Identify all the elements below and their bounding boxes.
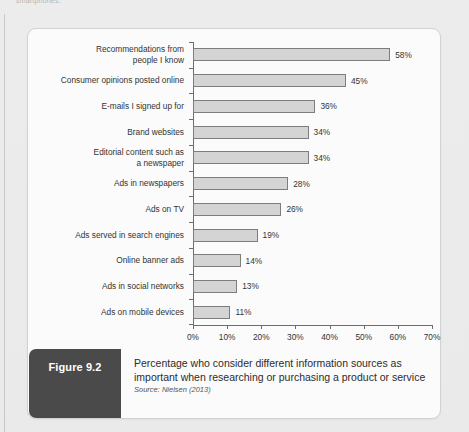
x-axis-ticks: 0%10%20%30%40%50%60%70% <box>193 325 432 347</box>
bar-category-label: Recommendations from people I know <box>24 44 184 65</box>
x-axis-tick-label: 50% <box>355 332 372 342</box>
bar-category-label: Ads on mobile devices <box>24 307 184 318</box>
bar-row: Online banner ads14% <box>193 248 431 274</box>
bar-category-label: Ads served in search engines <box>24 230 184 241</box>
y-axis-tick <box>189 93 193 94</box>
y-axis-tick <box>189 248 193 249</box>
bar-category-label: E-mails I signed up for <box>24 101 184 112</box>
x-axis-tick <box>295 325 296 329</box>
bar-row: Recommendations from people I know58% <box>193 42 431 68</box>
bar-value-label: 45% <box>351 76 368 86</box>
bar <box>193 177 288 190</box>
bar-row: Consumer opinions posted online45% <box>193 68 431 94</box>
y-axis-tick <box>189 68 193 69</box>
figure-number-badge: Figure 9.2 <box>29 349 121 418</box>
x-axis-tick <box>227 325 228 329</box>
y-axis-tick <box>189 171 193 172</box>
bar <box>193 280 237 293</box>
bar <box>193 229 258 242</box>
page-top-text-fragment: smartphones. <box>16 0 61 4</box>
bar-value-label: 11% <box>235 307 251 317</box>
y-axis-tick <box>189 119 193 120</box>
x-axis-tick <box>193 325 194 329</box>
caption-title: Percentage who consider different inform… <box>134 357 429 384</box>
plot-area: Recommendations from people I know58%Con… <box>193 42 431 325</box>
x-axis-tick-label: 0% <box>187 332 199 342</box>
x-axis-tick-label: 20% <box>253 332 270 342</box>
bar-category-label: Ads on TV <box>24 204 184 215</box>
y-axis-tick <box>189 145 193 146</box>
x-axis-tick-label: 30% <box>287 332 304 342</box>
bar-category-label: Ads in social networks <box>24 281 184 292</box>
y-axis-tick <box>189 196 193 197</box>
bar <box>193 74 346 87</box>
bar-category-label: Online banner ads <box>24 255 184 266</box>
x-axis-tick <box>330 325 331 329</box>
bar-row: Editorial content such as a newspaper34% <box>193 145 431 171</box>
y-axis-tick <box>189 299 193 300</box>
bar-row: Ads served in search engines19% <box>193 222 431 248</box>
bar-value-label: 14% <box>246 256 263 266</box>
bar-value-label: 34% <box>314 127 331 137</box>
bar-value-label: 36% <box>320 101 337 111</box>
caption-source: Source: Nielsen (2013) <box>134 385 429 394</box>
figure-caption: Figure 9.2 Percentage who consider diffe… <box>29 349 441 418</box>
x-axis-tick-label: 10% <box>219 332 236 342</box>
caption-body: Percentage who consider different inform… <box>121 349 441 418</box>
bar <box>193 254 241 267</box>
bar-category-label: Editorial content such as a newspaper <box>24 147 184 168</box>
page-left-rule <box>4 14 5 432</box>
bar-value-label: 26% <box>286 204 303 214</box>
bar-row: Ads on TV26% <box>193 196 431 222</box>
bar-row: Ads on mobile devices11% <box>193 299 431 325</box>
bar-row: Ads in newspapers28% <box>193 171 431 197</box>
bar-category-label: Ads in newspapers <box>24 178 184 189</box>
bar <box>193 126 309 139</box>
bar-row: Brand websites34% <box>193 119 431 145</box>
bar-value-label: 28% <box>293 179 310 189</box>
x-axis-tick-label: 60% <box>390 332 407 342</box>
bar-row: E-mails I signed up for36% <box>193 93 431 119</box>
x-axis-tick-label: 40% <box>321 332 338 342</box>
x-axis-tick <box>364 325 365 329</box>
bar-category-label: Consumer opinions posted online <box>24 75 184 86</box>
bar-row: Ads in social networks13% <box>193 274 431 300</box>
bar-category-label: Brand websites <box>24 127 184 138</box>
bar-value-label: 58% <box>395 50 412 60</box>
bar <box>193 203 281 216</box>
figure-card: Recommendations from people I know58%Con… <box>27 28 441 419</box>
bar-chart: Recommendations from people I know58%Con… <box>28 29 440 341</box>
x-axis-tick <box>398 325 399 329</box>
bar <box>193 100 315 113</box>
x-axis-tick <box>432 325 433 329</box>
bar <box>193 151 309 164</box>
y-axis-tick <box>189 222 193 223</box>
bar-rows: Recommendations from people I know58%Con… <box>193 42 431 325</box>
bar <box>193 306 230 319</box>
figure-number-label: Figure 9.2 <box>49 361 102 373</box>
bar-value-label: 19% <box>263 230 280 240</box>
y-axis-tick <box>189 42 193 43</box>
bar-value-label: 13% <box>242 281 259 291</box>
x-axis-tick <box>261 325 262 329</box>
x-axis-tick-label: 70% <box>424 332 441 342</box>
bar-value-label: 34% <box>314 153 331 163</box>
y-axis-tick <box>189 274 193 275</box>
bar <box>193 48 390 61</box>
